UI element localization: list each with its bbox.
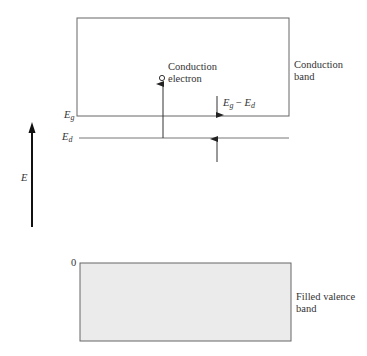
gap-annotation-label: Eg − Ed (223, 97, 255, 109)
conduction-electron-label-line2: electron (168, 73, 217, 85)
valence-band-label: Filled valence band (296, 291, 355, 315)
energy-axis-arrowhead (29, 122, 36, 133)
energy-axis-label: E (21, 172, 27, 184)
valence-band-label-line1: Filled valence (296, 291, 355, 303)
valence-band-label-line2: band (296, 303, 355, 315)
conduction-band-label-line1: Conduction (294, 59, 343, 71)
valence-zero-label: 0 (71, 257, 76, 269)
conduction-electron-label-line1: Conduction (168, 61, 217, 73)
gap-minus: − (233, 97, 244, 108)
conduction-electron-label: Conduction electron (168, 61, 217, 85)
eg-label: Eg (64, 109, 74, 121)
gap-s2: d (251, 101, 255, 110)
conduction-band-label: Conduction band (294, 59, 343, 83)
valence-band-box (80, 263, 291, 341)
ed-label: Ed (62, 131, 72, 143)
ed-subscript: d (68, 135, 72, 144)
eg-subscript: g (70, 113, 74, 122)
conduction-band-label-line2: band (294, 71, 343, 83)
conduction-electron-icon (159, 75, 164, 80)
